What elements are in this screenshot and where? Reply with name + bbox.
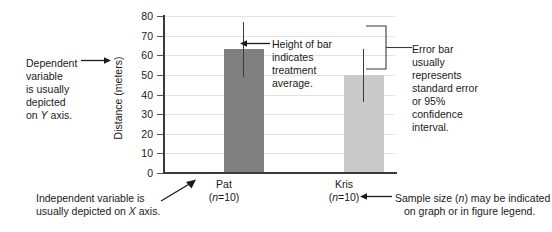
arrow-diagonal-independent-icon — [160, 178, 200, 202]
annotation-bar-height: Height of bar indicates treatment averag… — [272, 38, 368, 90]
annotation-error-bar-line6: confidence — [412, 108, 498, 121]
error-bar-pat — [243, 22, 244, 77]
bracket-error-bar-icon — [364, 25, 414, 70]
annotation-sample-size: Sample size (n) may be indicated on grap… — [395, 192, 551, 218]
category-name-pat: Pat — [216, 178, 232, 190]
annotation-sample-size-line2: on graph or in figure legend. — [404, 205, 551, 218]
annotation-bar-height-line1: Height of bar — [272, 38, 368, 51]
arrow-left-sample-size-icon — [360, 192, 392, 201]
annotation-dependent-line2: variable — [26, 70, 104, 83]
annotation-dependent-line4: depicted — [26, 96, 104, 109]
annotation-error-bar-line7: interval. — [412, 121, 498, 134]
annotation-bar-height-line4: average. — [272, 77, 368, 90]
arrow-left-bar-height-icon — [240, 39, 270, 48]
annotation-error-bar-line1: Error bar — [412, 43, 498, 56]
gridline-80 — [164, 16, 395, 17]
annotation-error-bar-line2: usually — [412, 56, 498, 69]
annotation-dependent-variable: Dependent variable is usually depicted o… — [26, 57, 104, 122]
category-name-kris: Kris — [335, 178, 353, 190]
annotation-independent-line2: usually depicted on X axis. — [36, 205, 216, 218]
x-axis-line — [163, 172, 397, 174]
annotation-error-bar-line4: standard error — [412, 82, 498, 95]
annotation-error-bar: Error bar usually represents standard er… — [412, 43, 498, 134]
annotation-dependent-line5: on Y axis. — [26, 109, 104, 122]
y-axis-line — [163, 15, 165, 174]
category-n-kris: (n=10) — [329, 191, 360, 203]
annotation-dependent-line3: is usually — [26, 83, 104, 96]
arrow-right-dependent-icon — [81, 56, 111, 65]
annotation-bar-height-line3: treatment — [272, 64, 368, 77]
gridline-70 — [164, 36, 395, 37]
annotation-error-bar-line5: or 95% — [412, 95, 498, 108]
annotation-bar-height-line2: indicates — [272, 51, 368, 64]
y-axis-title: Distance (meters) — [112, 18, 124, 178]
annotation-sample-size-line1: Sample size (n) may be indicated — [395, 192, 551, 205]
figure-bar-chart-annotated: 80 70 60 50 40 30 20 10 0 Distance (mete… — [0, 0, 552, 232]
annotation-error-bar-line3: represents — [412, 69, 498, 82]
